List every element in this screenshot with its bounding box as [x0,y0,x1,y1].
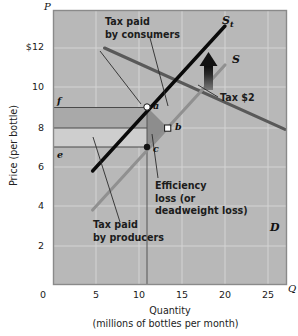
point-a-label: a [153,100,159,111]
x-tick-15: 15 [169,289,195,300]
efficiency-loss-line-3: deadweight loss) [155,205,248,218]
y-axis-title: Price (per bottle) [8,91,19,201]
supply-tax-curve-label-text: S [222,14,230,27]
y-tick-4: 4 [14,200,44,211]
plot-area [53,10,287,285]
axis-marker-e-label: e [57,149,63,160]
x-tick-0: 0 [30,289,56,300]
point-c-label: c [153,143,159,154]
y-tick-10: 10 [14,81,44,92]
x-axis-subtitle: (millions of bottles per month) [33,318,298,329]
tax-paid-by-consumers-line-2: by consumers [105,29,180,42]
supply-demand-tax-chart: P Q $12 10 8 6 4 2 0 5 10 15 20 25 St S … [0,0,298,336]
efficiency-loss-line-2: loss (or [155,193,248,206]
y-tick-2: 2 [14,240,44,251]
x-axis-symbol: Q [288,283,296,294]
x-tick-25: 25 [255,289,281,300]
tax-paid-by-consumers-label: Tax paid by consumers [105,16,180,41]
point-b-label: b [175,121,182,132]
tax-paid-by-consumers-line-1: Tax paid [105,16,180,29]
efficiency-loss-label: Efficiency loss (or deadweight loss) [155,180,248,218]
supply-tax-curve-label-subscript: t [230,19,234,29]
x-tick-10: 10 [126,289,152,300]
x-tick-20: 20 [212,289,238,300]
axis-marker-f-label: f [57,95,61,106]
demand-curve-label: D [270,221,280,234]
tax-paid-by-producers-label: Tax paid by producers [93,219,164,244]
y-tick-6: 6 [14,161,44,172]
y-tick-12: $12 [14,41,44,52]
supply-curve-label: S [232,53,240,66]
efficiency-loss-line-1: Efficiency [155,180,248,193]
tax-paid-by-producers-line-2: by producers [93,232,164,245]
x-axis-title: Quantity [53,305,287,316]
y-tick-8: 8 [14,122,44,133]
supply-tax-curve-label: St [222,14,234,29]
x-tick-5: 5 [83,289,109,300]
tax-amount-label: Tax $2 [220,92,255,105]
y-axis-symbol: P [44,1,51,12]
tax-paid-by-producers-line-1: Tax paid [93,219,164,232]
